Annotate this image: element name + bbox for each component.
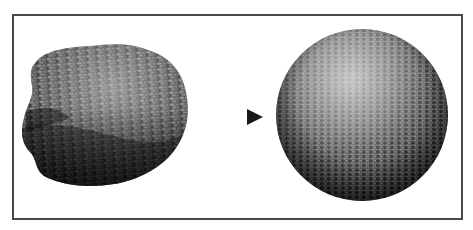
textured-sphere [272, 25, 452, 205]
deformed-blob [10, 34, 200, 196]
diagram-canvas [0, 0, 473, 230]
arrow-right-icon [204, 109, 263, 125]
